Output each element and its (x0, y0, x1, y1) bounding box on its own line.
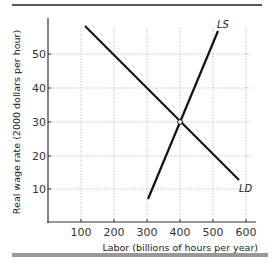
x-axis-title: Labor (billions of hours per year) (102, 242, 258, 253)
labor-market-chart: 100 200 300 400 500 600 10 20 30 40 50 L… (0, 0, 274, 265)
x-tick-label: 300 (137, 226, 158, 239)
y-tick-label: 50 (32, 48, 46, 61)
x-tick-label: 600 (236, 226, 257, 239)
equilibrium-point (178, 120, 183, 125)
bottom-rule (12, 253, 268, 257)
labor-supply-curve (148, 31, 218, 199)
y-axis-title: Real wage rate (2000 dollars per hour) (11, 30, 22, 214)
y-tick-label: 10 (32, 183, 46, 196)
ls-label: LS (217, 19, 230, 30)
x-tick-label: 100 (71, 226, 92, 239)
x-tick-label: 500 (203, 226, 224, 239)
y-tick-label: 40 (32, 82, 46, 95)
y-tick-label: 20 (32, 150, 46, 163)
labor-demand-curve (85, 26, 239, 180)
x-tick-label: 200 (104, 226, 125, 239)
x-tick-label: 400 (170, 226, 191, 239)
ld-label: LD (239, 183, 253, 194)
y-tick-label: 30 (32, 116, 46, 129)
